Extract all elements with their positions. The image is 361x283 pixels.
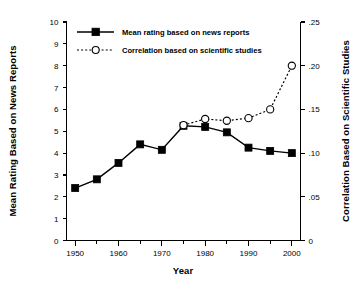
legend-entry-scientific-studies: Correlation based on scientific studies xyxy=(77,46,262,55)
legend-label-news-reports: Mean rating based on news reports xyxy=(122,28,249,37)
left-tick-label: 9 xyxy=(54,40,59,49)
left-tick-label: 0 xyxy=(54,237,59,246)
x-tick-label: 1970 xyxy=(153,249,171,258)
data-point-marker xyxy=(288,150,295,157)
right-tick-label: .25 xyxy=(309,18,321,27)
data-point-marker xyxy=(137,141,144,148)
legend-label-scientific-studies: Correlation based on scientific studies xyxy=(122,46,262,55)
chart-figure: 012345678910 0.05.10.15.20.25 1950196019… xyxy=(0,0,361,283)
x-tick-label: 1950 xyxy=(66,249,84,258)
left-tick-label: 3 xyxy=(54,171,59,180)
data-point-marker xyxy=(267,106,274,113)
right-tick-label: .20 xyxy=(309,62,321,71)
data-point-marker xyxy=(223,129,230,136)
right-tick-label: .05 xyxy=(309,193,321,202)
left-tick-label: 10 xyxy=(50,18,59,27)
x-tick-label: 1960 xyxy=(110,249,128,258)
dual-axis-line-chart: 012345678910 0.05.10.15.20.25 1950196019… xyxy=(0,0,361,283)
left-axis-ticks: 012345678910 xyxy=(50,18,67,246)
left-axis-title: Mean Rating Based on News Reports xyxy=(7,45,18,216)
data-point-marker xyxy=(202,123,209,130)
right-axis-title: Correlation Based on Scientific Studies xyxy=(340,40,351,222)
data-point-marker xyxy=(115,159,122,166)
left-tick-label: 6 xyxy=(54,105,59,114)
data-point-marker xyxy=(158,146,165,153)
x-tick-label: 1980 xyxy=(196,249,214,258)
data-point-marker xyxy=(180,122,187,129)
data-point-marker xyxy=(267,147,274,154)
data-point-marker xyxy=(72,185,79,192)
legend-marker-filled-square xyxy=(92,28,99,35)
x-tick-label: 2000 xyxy=(283,249,301,258)
left-tick-label: 2 xyxy=(54,193,59,202)
legend-entry-news-reports: Mean rating based on news reports xyxy=(77,28,249,37)
x-tick-label: 1990 xyxy=(240,249,258,258)
left-tick-label: 7 xyxy=(54,84,59,93)
right-tick-label: .10 xyxy=(309,149,321,158)
data-point-marker xyxy=(288,62,295,69)
data-point-marker xyxy=(223,117,230,124)
x-axis-ticks: 195019601970198019902000 xyxy=(66,241,301,258)
left-tick-label: 5 xyxy=(54,127,59,136)
chart-legend: Mean rating based on news reports Correl… xyxy=(77,28,262,55)
series-layer xyxy=(72,62,296,191)
left-tick-label: 8 xyxy=(54,62,59,71)
data-point-marker xyxy=(245,144,252,151)
data-point-marker xyxy=(245,115,252,122)
right-tick-label: .15 xyxy=(309,105,321,114)
left-tick-label: 1 xyxy=(54,215,59,224)
legend-marker-open-circle xyxy=(92,47,99,54)
series-line-1 xyxy=(184,66,292,125)
data-point-marker xyxy=(93,176,100,183)
x-axis-title: Year xyxy=(173,265,194,276)
data-point-marker xyxy=(202,115,209,122)
right-tick-label: 0 xyxy=(309,237,314,246)
series-line-0 xyxy=(75,126,292,188)
right-axis-ticks: 0.05.10.15.20.25 xyxy=(301,18,321,246)
left-tick-label: 4 xyxy=(54,149,59,158)
